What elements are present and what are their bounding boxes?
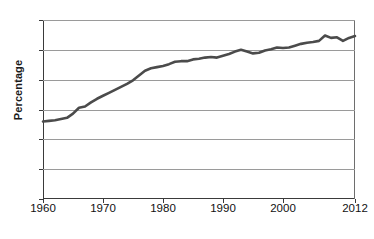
x-tick-mark bbox=[223, 199, 224, 203]
x-tick-label: 1990 bbox=[198, 203, 248, 215]
data-series-line bbox=[43, 20, 355, 199]
x-tick-mark bbox=[103, 199, 104, 203]
x-tick-label: 1970 bbox=[78, 203, 128, 215]
x-tick-label: 1960 bbox=[18, 203, 68, 215]
x-tick-mark bbox=[283, 199, 284, 203]
series-polyline bbox=[43, 36, 355, 122]
x-tick-label: 2012 bbox=[330, 203, 374, 215]
y-axis-title: Percentage bbox=[12, 30, 24, 150]
x-tick-mark bbox=[43, 199, 44, 203]
x-tick-mark bbox=[355, 199, 356, 203]
plot-area: 302520151050 196019701980199020002012 bbox=[43, 20, 355, 199]
x-tick-label: 2000 bbox=[258, 203, 308, 215]
line-chart: Percentage 302520151050 1960197019801990… bbox=[0, 0, 374, 239]
x-tick-mark bbox=[163, 199, 164, 203]
x-tick-label: 1980 bbox=[138, 203, 188, 215]
